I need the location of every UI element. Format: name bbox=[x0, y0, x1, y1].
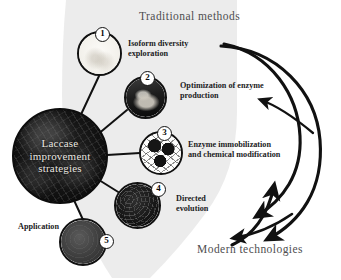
header-modern-technologies: Modern technologies bbox=[197, 243, 303, 255]
inner-feedback-arc bbox=[224, 44, 300, 216]
label-directed-evolution: Directed evolution bbox=[176, 194, 208, 213]
label-enzyme-production: Optimization of enzyme production bbox=[180, 81, 264, 100]
arrow-to-enzyme-production bbox=[261, 100, 313, 133]
label-isoform-diversity: Isoform diversity exploration bbox=[128, 39, 188, 58]
label-immobilization: Enzyme immobilization and chemical modif… bbox=[188, 140, 280, 159]
header-traditional-methods: Traditional methods bbox=[139, 10, 240, 22]
laccase-improvement-strategies-diagram: Laccase improvement strategies 1 2 3 4 5… bbox=[0, 0, 341, 280]
label-application: Application bbox=[18, 222, 59, 232]
